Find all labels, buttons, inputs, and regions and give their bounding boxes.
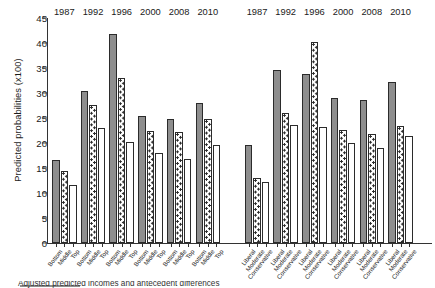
bar — [81, 91, 89, 243]
x-axis-tick-mark — [188, 243, 189, 247]
year-label: 1996 — [304, 7, 325, 18]
bar — [167, 119, 175, 244]
x-axis-tick-mark — [257, 243, 258, 247]
bar-group-container — [47, 18, 431, 243]
bar — [331, 98, 339, 244]
bar — [282, 113, 290, 243]
year-label: 1992 — [83, 7, 104, 18]
x-axis-tick-mark — [335, 243, 336, 247]
x-axis-tick-mark — [409, 243, 410, 247]
x-axis-category-label: Top — [213, 248, 225, 260]
bar — [147, 131, 155, 244]
bar — [348, 143, 356, 243]
year-label: 2008 — [169, 7, 190, 18]
year-label: 2010 — [390, 7, 411, 18]
bar — [109, 34, 117, 244]
bar — [262, 182, 270, 243]
year-label: 2000 — [333, 7, 354, 18]
x-axis-tick-mark — [93, 243, 94, 247]
plot-area — [47, 18, 431, 243]
bar — [253, 178, 261, 243]
x-axis-tick-mark — [73, 243, 74, 247]
bar — [319, 127, 327, 243]
x-axis-tick-mark — [294, 243, 295, 247]
x-axis-tick-mark — [286, 243, 287, 247]
bar — [213, 145, 221, 244]
x-axis-tick-mark — [277, 243, 278, 247]
x-axis-tick-mark — [208, 243, 209, 247]
x-axis-tick-mark — [64, 243, 65, 247]
bar — [377, 148, 385, 243]
caption-text: Adjusted predicted incomes and anteceden… — [18, 281, 220, 288]
x-axis-tick-mark — [102, 243, 103, 247]
x-axis-tick-mark — [372, 243, 373, 247]
year-label: 2000 — [140, 7, 161, 18]
bar — [138, 116, 146, 243]
x-axis-tick-mark — [216, 243, 217, 247]
bar — [175, 132, 183, 243]
bar — [388, 82, 396, 244]
bar — [196, 103, 204, 244]
x-axis-tick-mark — [179, 243, 180, 247]
year-label: 1987 — [247, 7, 268, 18]
bar — [118, 78, 126, 243]
chart-figure: Predicted probabilities (x100) 051015202… — [0, 0, 435, 288]
bar — [155, 153, 163, 243]
x-axis-tick-mark — [266, 243, 267, 247]
bar — [302, 74, 310, 243]
x-axis-tick-mark — [249, 243, 250, 247]
bar — [290, 125, 298, 243]
bar — [69, 185, 77, 243]
x-axis-tick-mark — [323, 243, 324, 247]
x-axis-tick-mark — [199, 243, 200, 247]
bar — [204, 119, 212, 243]
y-axis-tick-group: 051015202530354045 — [0, 0, 47, 288]
x-axis-tick-mark — [142, 243, 143, 247]
year-label: 1992 — [275, 7, 296, 18]
bar — [61, 171, 69, 244]
bar — [311, 42, 319, 243]
bar — [89, 105, 97, 244]
bar — [339, 130, 347, 243]
x-axis-line — [47, 243, 432, 244]
bar — [52, 160, 60, 244]
x-axis-tick-mark — [122, 243, 123, 247]
year-label: 2010 — [197, 7, 218, 18]
bar — [360, 100, 368, 244]
year-label: 2008 — [361, 7, 382, 18]
figure-caption: Adjusted predicted incomes and anteceden… — [0, 281, 435, 288]
x-axis-tick-mark — [380, 243, 381, 247]
x-axis-tick-mark — [150, 243, 151, 247]
x-axis-tick-mark — [314, 243, 315, 247]
bar — [397, 126, 405, 243]
bar — [126, 142, 134, 243]
x-axis-tick-mark — [85, 243, 86, 247]
x-axis-tick-mark — [130, 243, 131, 247]
bar — [184, 159, 192, 243]
x-axis-tick-mark — [343, 243, 344, 247]
x-axis-tick-mark — [113, 243, 114, 247]
x-axis-tick-mark — [56, 243, 57, 247]
bar — [98, 128, 106, 243]
x-axis-tick-mark — [306, 243, 307, 247]
x-axis-tick-mark — [159, 243, 160, 247]
x-axis-tick-mark — [171, 243, 172, 247]
x-axis-tick-mark — [352, 243, 353, 247]
bar — [368, 134, 376, 243]
x-axis-tick-mark — [401, 243, 402, 247]
x-axis-tick-mark — [363, 243, 364, 247]
bar — [405, 136, 413, 243]
bar — [273, 70, 281, 244]
year-label: 1987 — [54, 7, 75, 18]
year-label: 1996 — [111, 7, 132, 18]
bar — [245, 145, 253, 243]
x-axis-tick-mark — [392, 243, 393, 247]
